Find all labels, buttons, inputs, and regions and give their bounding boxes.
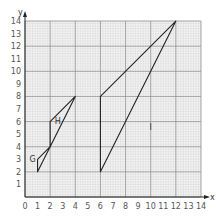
x-tick-label: 12 (171, 202, 181, 211)
x-tick-label: 4 (73, 202, 78, 211)
y-tick-label: 2 (16, 168, 21, 177)
y-axis-label: y (18, 8, 23, 17)
x-tick-label: 8 (123, 202, 128, 211)
x-tick-label: 2 (48, 202, 53, 211)
shape-label-g: G (29, 155, 35, 164)
y-tick-label: 4 (16, 143, 21, 152)
x-tick-label: 14 (196, 202, 206, 211)
y-tick-label: 9 (16, 80, 21, 89)
y-tick-label: 3 (16, 155, 21, 164)
coordinate-grid-diagram: xy01234567891011121314123456789101112131… (0, 0, 216, 219)
x-tick-label: 3 (60, 202, 65, 211)
x-tick-label: 7 (110, 202, 115, 211)
x-tick-label: 0 (22, 202, 27, 211)
x-tick-label: 11 (158, 202, 168, 211)
y-tick-label: 14 (11, 17, 21, 26)
y-tick-label: 10 (11, 67, 21, 76)
x-tick-label: 5 (85, 202, 90, 211)
y-tick-label: 6 (16, 118, 21, 127)
x-tick-label: 9 (136, 202, 141, 211)
x-tick-label: 6 (98, 202, 103, 211)
y-tick-label: 8 (16, 92, 21, 101)
shape-label-h: H (55, 117, 61, 126)
y-tick-label: 1 (16, 180, 21, 189)
x-tick-label: 10 (146, 202, 156, 211)
y-tick-label: 11 (11, 55, 21, 64)
shape-label-i: I (150, 123, 152, 132)
x-tick-label: 13 (183, 202, 193, 211)
x-tick-label: 1 (35, 202, 40, 211)
y-axis-arrow-icon (23, 11, 27, 17)
y-tick-label: 7 (16, 105, 21, 114)
y-tick-label: 12 (11, 42, 21, 51)
x-axis-label: x (210, 193, 215, 202)
y-tick-label: 5 (16, 130, 21, 139)
y-tick-label: 13 (11, 30, 21, 39)
